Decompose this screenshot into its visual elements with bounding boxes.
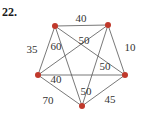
edge-A-B	[55, 25, 108, 26]
edge-weight-E-A: 35	[27, 43, 39, 55]
vertex-B	[105, 22, 111, 28]
edge-weight-E-C: 40	[51, 73, 63, 85]
edge-B-C	[108, 25, 125, 75]
weighted-graph: 40104570356050504050	[0, 0, 141, 116]
vertex-D	[79, 103, 85, 109]
edge-weight-A-B: 40	[76, 12, 88, 24]
edge-A-C	[55, 26, 125, 75]
edge-B-E	[38, 25, 108, 75]
vertex-C	[122, 72, 128, 78]
edge-weight-A-D: 60	[51, 40, 63, 52]
vertex-A	[52, 23, 58, 29]
edge-weight-B-C: 10	[125, 41, 137, 53]
edge-weight-B-E: 50	[79, 34, 91, 46]
edge-weight-C-D: 45	[105, 93, 117, 105]
edge-weight-B-D: 50	[81, 85, 93, 97]
edge-weight-D-E: 70	[43, 94, 55, 106]
edge-weight-A-C: 50	[100, 60, 112, 72]
vertex-E	[35, 72, 41, 78]
